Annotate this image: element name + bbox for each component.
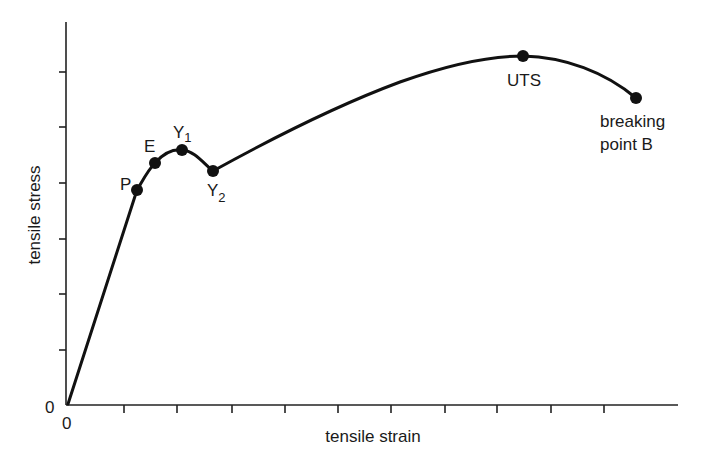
label-UTS: UTS — [507, 71, 541, 90]
x-axis-title: tensile strain — [325, 427, 420, 446]
stress-strain-curve — [68, 56, 636, 404]
data-points — [131, 50, 642, 196]
label-Y2: Y2 — [207, 181, 226, 205]
point-UTS — [517, 50, 529, 62]
axes — [66, 22, 678, 405]
stress-strain-chart: P E Y1 Y2 UTS breaking point B 0 0 tensi… — [0, 0, 702, 463]
label-P: P — [120, 175, 131, 194]
point-E — [149, 157, 161, 169]
y-ticks — [59, 72, 66, 350]
x-ticks — [124, 405, 604, 413]
point-P — [131, 184, 143, 196]
point-B — [630, 92, 642, 104]
y-axis-title: tensile stress — [25, 165, 44, 264]
label-B-line2: point B — [600, 135, 653, 154]
point-Y1 — [176, 144, 188, 156]
label-E: E — [144, 137, 155, 156]
y-origin-label: 0 — [45, 398, 54, 417]
label-Y1: Y1 — [173, 123, 192, 145]
x-origin-label: 0 — [62, 414, 71, 433]
label-B-line1: breaking — [600, 112, 665, 131]
point-Y2 — [207, 165, 219, 177]
